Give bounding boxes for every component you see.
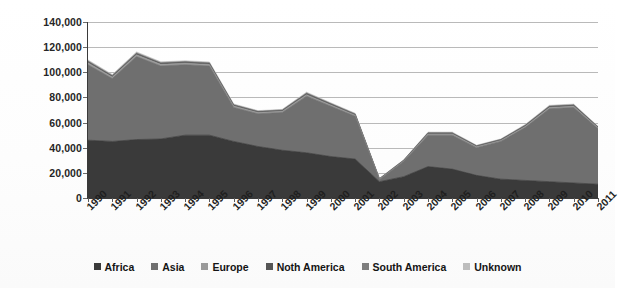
legend-item-africa[interactable]: Africa: [94, 261, 135, 273]
plot-area: [88, 22, 598, 198]
x-axis: 1990199119921993199419951996199719981999…: [88, 198, 598, 254]
legend-item-label: Europe: [212, 261, 248, 273]
legend-item-label: Noth America: [277, 261, 345, 273]
y-axis-tick-label: 120,000: [43, 41, 82, 53]
legend-item-asia[interactable]: Asia: [151, 261, 184, 273]
legend-item-europe[interactable]: Europe: [201, 261, 248, 273]
legend-swatch-icon: [463, 263, 470, 270]
chart-legend: AfricaAsiaEuropeNoth AmericaSouth Americ…: [0, 258, 615, 276]
y-axis-tick-label: 140,000: [43, 16, 82, 28]
legend-swatch-icon: [94, 263, 101, 270]
legend-item-label: Asia: [162, 261, 184, 273]
y-axis-tick-label: 0: [76, 192, 82, 204]
legend-item-label: Unknown: [474, 261, 521, 273]
legend-item-label: South America: [373, 261, 447, 273]
y-axis-tick-label: 100,000: [43, 66, 82, 78]
legend-item-unknown[interactable]: Unknown: [463, 261, 521, 273]
legend-swatch-icon: [201, 263, 208, 270]
area-series-group: [88, 22, 598, 198]
legend-item-south-america[interactable]: South America: [362, 261, 447, 273]
y-axis-tick-label: 60,000: [49, 117, 82, 129]
legend-swatch-icon: [151, 263, 158, 270]
y-axis-tick-label: 20,000: [49, 167, 82, 179]
legend-item-label: Africa: [105, 261, 135, 273]
legend-item-noth-america[interactable]: Noth America: [266, 261, 345, 273]
y-axis-tick-label: 80,000: [49, 91, 82, 103]
legend-swatch-icon: [362, 263, 369, 270]
legend-swatch-icon: [266, 263, 273, 270]
y-axis-tick-label: 40,000: [49, 142, 82, 154]
y-axis: 020,00040,00060,00080,000100,000120,0001…: [0, 0, 88, 210]
